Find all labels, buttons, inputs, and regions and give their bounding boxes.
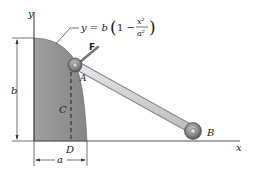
point-b-label: B [206,127,214,138]
dim-a-label: a [57,154,63,165]
arrow-left-icon [35,159,40,162]
arrow-up-icon [16,39,19,44]
point-a-label: A [79,73,87,83]
point-d-label: D [65,144,74,155]
equation-leader [56,28,79,44]
svg-text:(: ( [110,17,117,37]
svg-text:a²: a² [137,29,145,38]
curve-equation: y = b ( 1 − x² a² ) [80,17,156,38]
parabolic-cam-diagram: y x b a F A B C D y = b ( 1 − x² a² ) [0,0,253,171]
parabolic-region [34,38,87,141]
point-c-label: C [59,104,67,115]
x-axis-label: x [236,142,242,153]
svg-text:x²: x² [137,17,145,26]
arrow-down-icon [16,135,19,140]
force-label: F [89,42,95,52]
svg-text:y = b: y = b [80,22,108,33]
svg-text:1 −: 1 − [117,22,135,33]
dim-b-label: b [11,85,17,96]
svg-text:): ) [149,17,156,37]
y-axis-label: y [27,8,34,19]
arrow-right-icon [81,159,86,162]
